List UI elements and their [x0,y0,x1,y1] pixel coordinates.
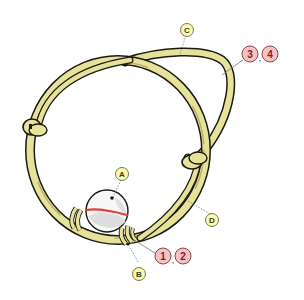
svg-text:D: D [209,216,215,225]
left-binding [72,208,81,230]
svg-text:B: B [136,270,142,279]
svg-text:3: 3 [247,49,253,60]
svg-text:C: C [184,26,190,35]
svg-text:4: 4 [267,49,273,60]
svg-text:1: 1 [160,251,166,262]
label-a: A [116,168,129,181]
bead [86,190,128,232]
svg-text:2: 2 [180,251,186,262]
svg-text:,: , [259,55,261,63]
bracelet-diagram: C A D B 3 , 4 1 , 2 [0,0,304,300]
svg-text:A: A [119,170,125,179]
label-d: D [206,214,219,227]
label-b: B [133,268,146,281]
label-1-2: 1 , 2 [155,248,191,265]
left-sliding-knot [23,119,47,136]
label-c: C [181,24,194,37]
label-3-4: 3 , 4 [242,46,278,63]
svg-text:,: , [172,257,174,265]
